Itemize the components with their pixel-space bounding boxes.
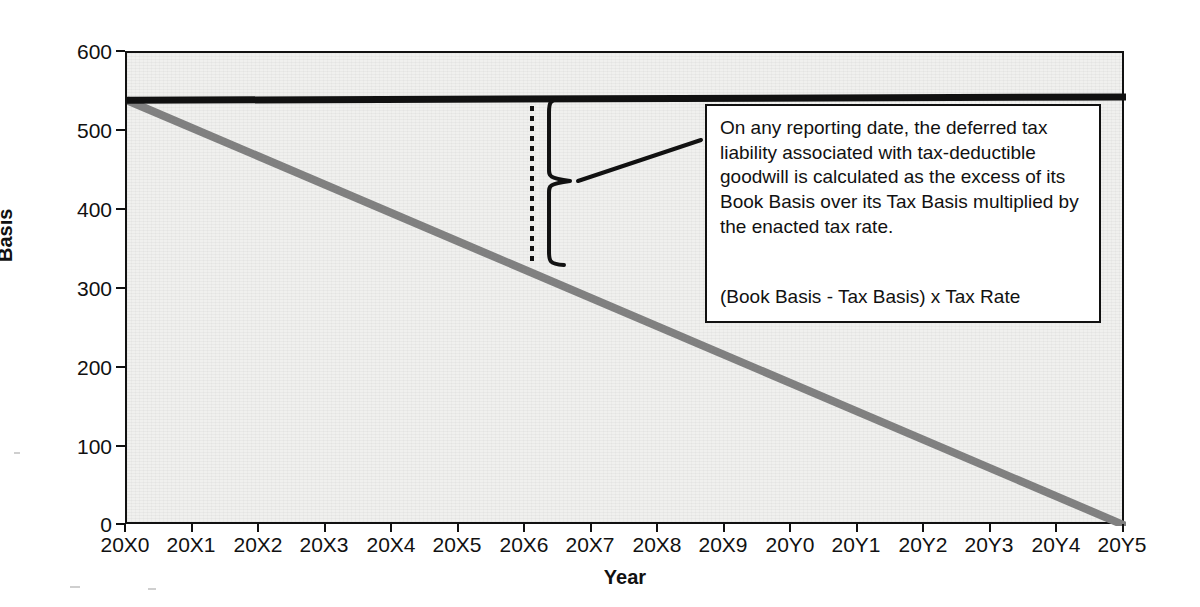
- y-tick-mark-200: [116, 366, 125, 368]
- y-tick-label-300: 300: [52, 278, 112, 299]
- y-tick-label-500: 500: [52, 120, 112, 141]
- y-tick-mark-300: [116, 287, 125, 289]
- x-axis-title: Year: [525, 566, 725, 589]
- x-tick-mark-7: [590, 524, 592, 532]
- x-tick-mark-11: [856, 524, 858, 532]
- deferred-tax-callout: On any reporting date, the deferred tax …: [705, 104, 1101, 323]
- x-tick-mark-4: [390, 524, 392, 532]
- x-tick-mark-3: [324, 524, 326, 532]
- x-tick-mark-15: [1122, 524, 1124, 532]
- scan-speck: [70, 586, 80, 588]
- y-tick-label-200: 200: [52, 357, 112, 378]
- y-axis-title: Basis: [0, 209, 17, 262]
- callout-paragraph: On any reporting date, the deferred tax …: [720, 116, 1087, 239]
- y-tick-label-400: 400: [52, 199, 112, 220]
- callout-formula: (Book Basis - Tax Basis) x Tax Rate: [720, 285, 1087, 310]
- scan-speck: [148, 588, 156, 590]
- x-tick-mark-2: [257, 524, 259, 532]
- x-tick-mark-9: [723, 524, 725, 532]
- chart-figure: 600 500 400 300 200 100 0 Basis: [0, 0, 1200, 607]
- x-tick-mark-0: [124, 524, 126, 532]
- x-tick-label-20Y5: 20Y5: [1082, 534, 1162, 555]
- y-tick-label-100: 100: [52, 436, 112, 457]
- y-tick-label-600: 600: [52, 41, 112, 62]
- x-tick-mark-5: [457, 524, 459, 532]
- x-tick-mark-1: [191, 524, 193, 532]
- y-tick-label-0: 0: [52, 514, 112, 535]
- y-tick-mark-600: [116, 50, 125, 52]
- y-tick-mark-500: [116, 129, 125, 131]
- x-tick-mark-14: [1055, 524, 1057, 532]
- y-tick-mark-100: [116, 445, 125, 447]
- x-tick-mark-6: [523, 524, 525, 532]
- scan-speck: [14, 452, 20, 454]
- x-tick-mark-8: [656, 524, 658, 532]
- book-basis-line: [127, 97, 1126, 100]
- y-tick-mark-400: [116, 208, 125, 210]
- x-tick-mark-10: [789, 524, 791, 532]
- x-tick-mark-12: [922, 524, 924, 532]
- x-tick-mark-13: [989, 524, 991, 532]
